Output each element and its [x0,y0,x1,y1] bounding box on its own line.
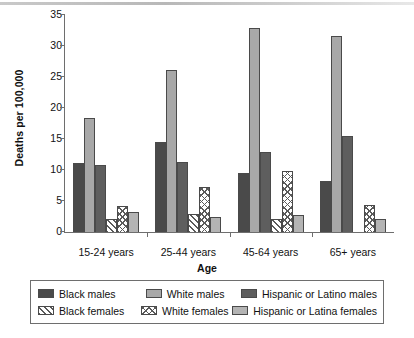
legend-row-females: Black femalesWhite femalesHispanic or La… [38,302,377,319]
legend-swatch-icon [141,306,157,315]
y-tick-label: 30 [36,39,62,51]
y-tick-label: 10 [36,163,62,175]
bar [260,152,271,231]
bar [210,217,221,231]
bar [342,136,353,232]
bar [95,165,106,231]
x-tick-label: 25-44 years [147,246,229,262]
legend-item[interactable]: Hispanic or Latina females [232,305,377,317]
bar [238,173,249,231]
bar-groups [65,15,394,232]
axis-frame [64,14,394,233]
legend-item[interactable]: White males [146,288,241,300]
y-axis-tick-labels: 05101520253035 [36,14,62,233]
x-group-separator [312,233,313,237]
bar [128,212,139,231]
y-tick-label: 0 [36,225,62,237]
legend-label: Black females [59,305,124,317]
bar [155,142,166,232]
legend-item[interactable]: White females [141,305,232,317]
legend-swatch-icon [232,306,248,315]
legend-label: Black males [59,288,116,300]
legend-swatch-icon [38,306,54,315]
legend-item[interactable]: Black males [38,288,146,300]
chart-legend: Black malesWhite malesHispanic or Latino… [30,280,384,324]
legend-swatch-icon [38,289,54,298]
bar-group [147,15,229,232]
y-tick-label: 25 [36,70,62,82]
bar [73,163,84,232]
bar-chart-figure: Deaths per 100,000 05101520253035 15-24 … [0,0,414,338]
legend-row-males: Black malesWhite malesHispanic or Latino… [38,285,377,302]
bar [188,214,199,231]
x-group-separator [147,233,148,237]
bar [293,215,304,232]
bar [84,118,95,231]
bar [364,205,375,232]
bar-group [312,15,394,232]
y-tick-label: 20 [36,101,62,113]
bar [249,28,260,232]
bar [117,206,128,232]
legend-label: White females [162,305,229,317]
legend-label: Hispanic or Latino males [262,288,377,300]
y-tick-mark [60,169,64,170]
y-tick-label: 15 [36,132,62,144]
y-axis-title: Deaths per 100,000 [13,38,25,198]
bar [199,187,210,232]
y-tick-mark [60,45,64,46]
y-tick-mark [60,14,64,15]
bar [271,219,282,232]
legend-swatch-icon [146,289,162,298]
y-tick-mark [60,138,64,139]
legend-item[interactable]: Black females [38,305,141,317]
x-axis-title: Age [0,262,414,274]
bar [320,181,331,231]
x-tick-label: 45-64 years [230,246,312,262]
plot-area: Deaths per 100,000 05101520253035 [0,14,414,242]
legend-swatch-icon [241,289,257,298]
bar [106,219,117,231]
y-tick-mark [60,76,64,77]
bar [331,36,342,231]
bar-group [65,15,147,232]
bar [177,162,188,231]
x-group-separator [230,233,231,237]
legend-label: White males [167,288,225,300]
bar [375,219,386,231]
y-tick-mark [60,107,64,108]
bar-group [230,15,312,232]
legend-label: Hispanic or Latina females [253,305,377,317]
y-tick-mark [60,231,64,232]
y-tick-label: 35 [36,8,62,20]
y-tick-label: 5 [36,194,62,206]
y-tick-mark [60,200,64,201]
x-axis-tick-labels: 15-24 years25-44 years45-64 years65+ yea… [65,246,394,262]
x-tick-label: 15-24 years [65,246,147,262]
legend-item[interactable]: Hispanic or Latino males [241,288,377,300]
bar [166,70,177,232]
x-tick-label: 65+ years [312,246,394,262]
bar [282,171,293,232]
